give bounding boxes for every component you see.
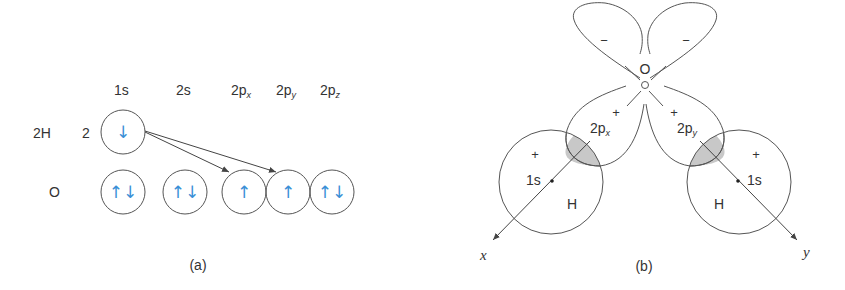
row-label-o: O [49,184,60,200]
h-nucleus-left [550,179,554,183]
h-label-left: H [567,196,577,212]
panel-a: 1s 2s 2px 2py 2pz 2H 2 ↓ O ↑↓ ↑↓ ↑ ↑ [33,82,354,273]
h-label-right: H [714,196,724,212]
orbital-1s-right: 1s [747,172,762,188]
sign-lower-left: + [612,105,620,120]
svg-text:↓: ↓ [116,122,130,142]
y-axis [700,141,797,240]
svg-text:↑: ↑ [281,182,295,202]
h-nucleus-right [736,179,740,183]
orbital-1s-left: 1s [526,172,541,188]
sign-h-right: + [752,147,760,162]
label-2px: 2px [590,120,611,138]
orbital-box-h-1s: ↓ [101,110,145,154]
caption-a: (a) [189,257,206,273]
row-label-2h: 2H [33,125,51,141]
orbital-box-o-1s: ↑↓ [101,170,145,214]
oxygen-nucleus [642,82,649,89]
axis-label-y: y [801,244,810,260]
column-label-2pz: 2pz [320,82,341,100]
x-axis [493,141,590,240]
label-2py: 2py [677,120,698,138]
orbital-box-o-2pz: ↑↓ [310,170,354,214]
svg-text:↑↓: ↑↓ [171,182,200,202]
lobe-upper-left [573,3,642,78]
orbital-box-o-2py: ↑ [266,170,310,214]
arrow-h-to-2px [145,132,229,172]
arrow-h-to-2py [145,131,276,172]
sign-upper-left: − [600,33,608,48]
column-label-2s: 2s [176,82,191,98]
caption-b: (b) [635,258,652,274]
svg-text:↑↓: ↑↓ [318,182,347,202]
column-label-1s: 1s [114,82,129,98]
oxygen-label: O [640,61,651,77]
column-label-2py: 2py [276,82,297,100]
orbital-box-o-2px: ↑ [222,170,266,214]
orbital-box-o-2s: ↑↓ [163,170,207,214]
panel-b: O − − + + 2px 2py + 1s H + 1s H x [479,3,810,274]
sign-h-left: + [531,147,539,162]
sign-lower-right: + [670,105,678,120]
orbital-diagram: 1s 2s 2px 2py 2pz 2H 2 ↓ O ↑↓ ↑↓ ↑ ↑ [0,0,845,290]
svg-text:↑: ↑ [237,182,251,202]
column-label-2px: 2px [231,82,252,100]
sign-upper-right: − [682,33,690,48]
row-count-2h: 2 [82,125,90,141]
axis-label-x: x [479,247,487,263]
svg-text:↑↓: ↑↓ [109,182,138,202]
